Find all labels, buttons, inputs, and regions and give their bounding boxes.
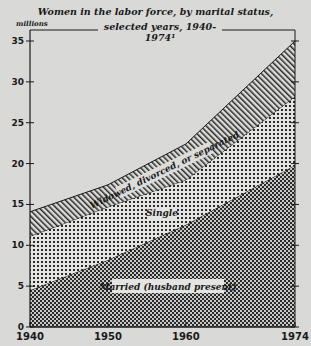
- y-tick-label: 10: [11, 240, 24, 250]
- svg-text:Single: Single: [146, 208, 178, 218]
- x-tick-label: 1940: [16, 331, 44, 342]
- y-tick-label: 25: [11, 118, 24, 128]
- y-tick-label: 20: [11, 159, 24, 169]
- area-label-married: Married (husband present): [99, 279, 237, 293]
- chart-canvas: 05101520253035 1940195019601974 Widowed,…: [0, 0, 311, 346]
- y-tick-label: 15: [11, 199, 24, 209]
- x-tick-label: 1950: [94, 331, 122, 342]
- y-tick-label: 30: [11, 77, 24, 87]
- y-tick-label: 35: [11, 36, 24, 46]
- area-label-single: Single: [146, 207, 178, 219]
- svg-text:Married (husband present): Married (husband present): [99, 282, 237, 292]
- x-tick-label: 1960: [172, 331, 200, 342]
- x-tick-label: 1974: [281, 331, 309, 342]
- y-tick-label: 5: [18, 281, 24, 291]
